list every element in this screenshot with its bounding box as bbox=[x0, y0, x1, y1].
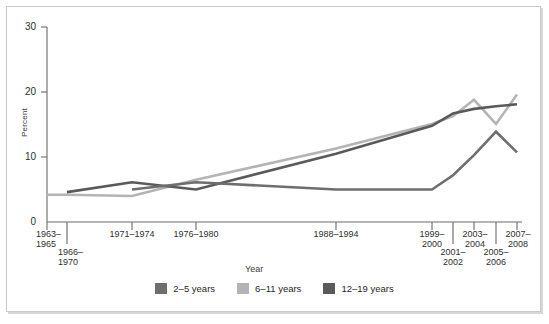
x-tick-label-1966-1970-line1: 1966– bbox=[58, 247, 83, 257]
x-tick-label-2001-2002: 2001– 2002 bbox=[434, 247, 472, 267]
x-tick-label-1966-1970: 1966– 1970 bbox=[58, 247, 102, 267]
x-tick-label-1971-1974-line1: 1971–1974 bbox=[109, 229, 154, 239]
x-tick-label-2005-2006-line2: 2006 bbox=[486, 257, 506, 267]
x-tick-label-1988-1994-line1: 1988–1994 bbox=[313, 229, 358, 239]
legend-item-2-5-years: 2–5 years bbox=[155, 283, 215, 294]
y-tick-label-0: 0 bbox=[10, 216, 36, 227]
y-axis-title: Percent bbox=[20, 93, 29, 153]
legend-label-2-5-years: 2–5 years bbox=[173, 283, 215, 294]
x-tick-label-2001-2002-line2: 2002 bbox=[443, 257, 463, 267]
plot-area: 30 20 10 0 Percent 1963– 1965 1966– 1970… bbox=[0, 0, 549, 324]
y-tick-label-30: 30 bbox=[10, 21, 36, 32]
y-tick-label-10: 10 bbox=[10, 151, 36, 162]
legend-item-12-19-years: 12–19 years bbox=[323, 283, 393, 294]
chart-legend: 2–5 years 6–11 years 12–19 years bbox=[0, 283, 549, 294]
x-tick-label-1963-1965-line2: 1965 bbox=[36, 239, 56, 249]
x-axis-title: Year bbox=[245, 264, 263, 274]
x-tick-label-2007-2008: 2007– 2008 bbox=[499, 229, 537, 249]
chart-page: 30 20 10 0 Percent 1963– 1965 1966– 1970… bbox=[0, 0, 549, 324]
x-tick-label-1988-1994: 1988–1994 bbox=[306, 229, 366, 239]
x-tick-label-2003-2004: 2003– 2004 bbox=[456, 229, 494, 249]
x-tick-label-2007-2008-line2: 2008 bbox=[508, 239, 528, 249]
x-tick-label-1963-1965-line1: 1963– bbox=[36, 229, 61, 239]
x-tick-label-1976-1980: 1976–1980 bbox=[166, 229, 226, 239]
x-tick-label-1963-1965: 1963– 1965 bbox=[36, 229, 76, 249]
x-tick-label-2007-2008-line1: 2007– bbox=[505, 229, 530, 239]
legend-label-12-19-years: 12–19 years bbox=[341, 283, 393, 294]
x-tick-label-1976-1980-line1: 1976–1980 bbox=[173, 229, 218, 239]
chart-svg bbox=[0, 0, 549, 324]
legend-swatch-12-19-years bbox=[323, 283, 335, 294]
x-tick-label-2005-2006: 2005– 2006 bbox=[477, 247, 515, 267]
legend-item-6-11-years: 6–11 years bbox=[237, 283, 301, 294]
x-tick-label-1999-2000-line1: 1999– bbox=[419, 229, 444, 239]
legend-label-6-11-years: 6–11 years bbox=[255, 283, 301, 294]
legend-swatch-2-5-years bbox=[155, 283, 167, 294]
x-tick-label-1999-2000: 1999– 2000 bbox=[413, 229, 451, 249]
x-tick-label-1966-1970-line2: 1970 bbox=[58, 257, 78, 267]
x-tick-label-2003-2004-line1: 2003– bbox=[462, 229, 487, 239]
legend-swatch-6-11-years bbox=[237, 283, 249, 294]
x-tick-label-1971-1974: 1971–1974 bbox=[102, 229, 162, 239]
